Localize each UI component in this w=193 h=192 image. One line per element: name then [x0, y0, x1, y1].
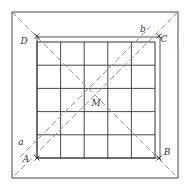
label-C: C [161, 34, 168, 44]
dashed-line-ab [20, 27, 150, 157]
point-labels: ABCDMab [18, 24, 170, 164]
label-a: a [18, 137, 23, 147]
label-D: D [19, 36, 27, 46]
point-markers [35, 34, 162, 161]
label-b: b [140, 24, 146, 34]
label-B: B [163, 147, 171, 157]
label-A: A [22, 154, 30, 164]
geometry-figure: ABCDMab [0, 0, 193, 192]
label-M: M [90, 98, 101, 108]
